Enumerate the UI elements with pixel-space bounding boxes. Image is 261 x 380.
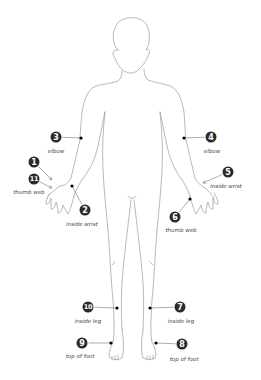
point-marker-10: 10 xyxy=(83,302,94,313)
point-dot xyxy=(148,306,151,309)
point-marker-5: 5 xyxy=(223,167,234,178)
connector-line xyxy=(179,199,190,212)
point-dot xyxy=(79,136,82,139)
point-label-10: inside leg xyxy=(75,318,101,324)
point-dot xyxy=(188,197,191,200)
point-marker-8: 8 xyxy=(177,339,188,350)
connector-line xyxy=(39,167,52,180)
point-marker-11: 11 xyxy=(29,174,40,185)
connector-line xyxy=(40,182,52,188)
point-marker-2: 2 xyxy=(80,205,91,216)
point-label-8: top of foot xyxy=(170,356,199,362)
point-marker-4: 4 xyxy=(206,132,217,143)
point-marker-1: 1 xyxy=(29,157,40,168)
point-label-9: top of foot xyxy=(66,353,95,359)
connector-line xyxy=(156,343,176,344)
point-label-3: elbow xyxy=(48,148,64,154)
connector-line xyxy=(184,137,205,138)
point-dot xyxy=(182,136,185,139)
point-marker-3: 3 xyxy=(51,132,62,143)
point-dot xyxy=(115,306,118,309)
body-diagram: 111thumb web3elbow2inside wrist4elbow5in… xyxy=(0,0,261,380)
point-marker-6: 6 xyxy=(170,212,181,223)
point-label-5: inside wrist xyxy=(210,183,241,189)
point-marker-9: 9 xyxy=(77,338,88,349)
point-marker-7: 7 xyxy=(175,302,186,313)
point-label-11: thumb web xyxy=(13,189,44,195)
point-dot xyxy=(154,341,157,344)
point-dot xyxy=(70,184,73,187)
point-label-6: thumb web xyxy=(165,227,196,233)
point-label-4: elbow xyxy=(204,148,220,154)
connector-line xyxy=(150,307,174,308)
point-label-7: inside leg xyxy=(168,318,194,324)
point-label-2: inside wrist xyxy=(66,221,97,227)
connector-line xyxy=(62,137,81,138)
point-dot xyxy=(109,341,112,344)
connector-line xyxy=(203,175,222,183)
